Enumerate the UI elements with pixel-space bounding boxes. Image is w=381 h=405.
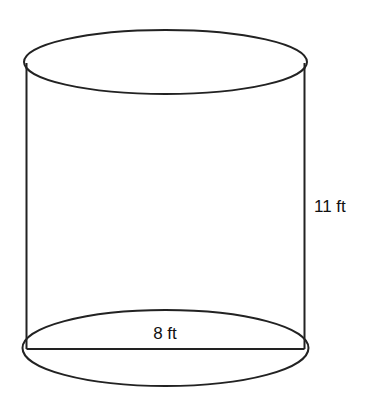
top-ellipse [24,30,307,94]
cylinder-diagram: 8 ft 11 ft [0,0,381,405]
diameter-label: 8 ft [153,324,177,343]
height-label: 11 ft [314,197,346,216]
